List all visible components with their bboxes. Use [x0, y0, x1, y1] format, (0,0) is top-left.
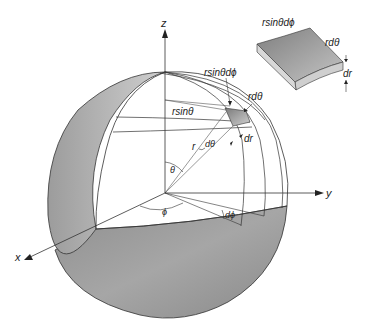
inset-thickness-label: dr — [343, 68, 353, 79]
radius-line-2 — [165, 126, 233, 193]
y-arrow-icon — [315, 190, 324, 196]
spherical-volume-diagram: z y x rsinθdϕ rdθ rsinθ dr r dθ θ ϕ dϕ r… — [0, 0, 367, 333]
x-arrow-icon — [24, 254, 33, 260]
inset-volume-element: rsinθdϕ rdθ dr — [257, 17, 353, 92]
inset-side-label: rdθ — [325, 37, 340, 48]
dphi-label: dϕ — [225, 210, 235, 220]
inset-top-label: rsinθdϕ — [262, 17, 295, 28]
rdtheta-leader — [246, 104, 252, 110]
dr-arrow-2 — [230, 141, 233, 146]
z-arrow-icon — [162, 29, 168, 38]
arrow-head — [344, 59, 348, 62]
theta-label: θ — [170, 165, 175, 175]
dtheta-label: dθ — [205, 139, 215, 149]
meridian-arc-1 — [165, 72, 244, 226]
x-axis-label: x — [14, 251, 21, 263]
arrow-head — [344, 80, 348, 84]
rsin-theta-dphi-label: rsinθdϕ — [204, 67, 237, 78]
sphere-outline — [165, 72, 288, 206]
phi-label: ϕ — [162, 207, 167, 217]
dr-arrow-1 — [239, 134, 243, 138]
y-axis-label: y — [325, 187, 333, 199]
r-sin-theta-label: rsinθ — [172, 106, 194, 117]
r-dtheta-label: rdθ — [248, 91, 263, 102]
z-axis-label: z — [160, 17, 167, 29]
dr-label: dr — [244, 133, 254, 144]
r-label: r — [192, 141, 196, 152]
arrow-head — [228, 101, 232, 106]
sphere — [48, 72, 288, 318]
radius-line — [165, 112, 226, 193]
